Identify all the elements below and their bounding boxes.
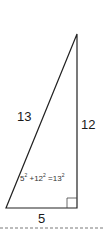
- right-angle-marker: [67, 198, 77, 208]
- pythagorean-equation: 52 +122 =132: [20, 171, 64, 183]
- hypotenuse-label: 13: [17, 110, 31, 123]
- vertical-leg-label: 12: [81, 118, 95, 131]
- base-label: 5: [38, 212, 45, 225]
